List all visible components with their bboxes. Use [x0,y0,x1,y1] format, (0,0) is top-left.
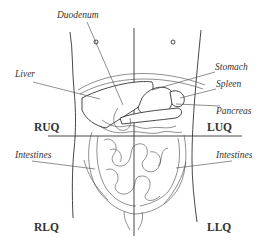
pancreas-label: Pancreas [215,106,252,116]
spleen-leader [180,89,216,98]
ruq-label: RUQ [34,121,60,133]
torso-left-side [192,30,201,222]
torso-outline [70,30,201,222]
spleen-label: Spleen [216,79,242,89]
intestines-left-label: Intestines [14,150,52,160]
torso-right-side [70,32,76,218]
stomach-label: Stomach [215,62,248,72]
intestines-shape [84,120,186,230]
liver-leader [33,82,100,99]
luq-label: LUQ [207,121,232,133]
liver-label: Liver [14,69,35,79]
rlq-label: RLQ [34,221,59,233]
abdominal-quadrant-diagram: Duodenum Liver Stomach Spleen Pancreas I… [0,0,265,248]
intestines-right-label: Intestines [215,150,253,160]
duodenum-label: Duodenum [56,10,99,20]
left-nipple [171,40,175,44]
intestines-right-leader [176,161,232,168]
llq-label: LLQ [207,221,231,233]
